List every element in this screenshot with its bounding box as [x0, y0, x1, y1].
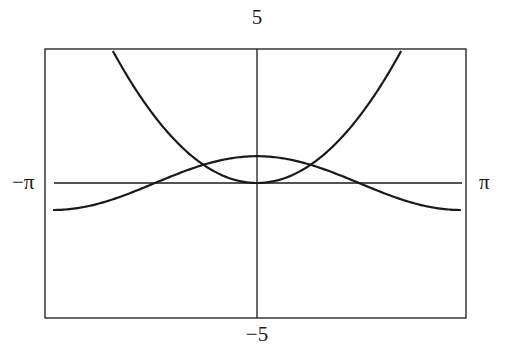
x-max-tick-label: π — [479, 172, 490, 193]
y-min-tick-label: −5 — [246, 324, 268, 345]
x-min-tick-label: −π — [12, 172, 34, 193]
plot-area — [0, 0, 510, 352]
y-max-tick-label: 5 — [252, 7, 263, 28]
